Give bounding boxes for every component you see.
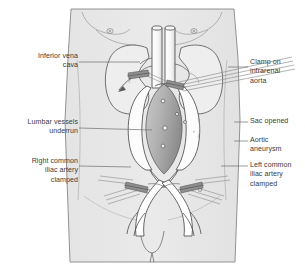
label-inferior-vena-cava: Inferior vena cava (14, 52, 78, 71)
aorta-proximal-vessel (165, 26, 175, 86)
label-clamp-on-infrarenal-aorta: Clamp on infrarenal aorta (250, 58, 305, 86)
label-sac-opened: Sac opened (250, 117, 305, 126)
aortic-aneurysm-repair-figure: Inferior vena cava Lumbar vessels underr… (0, 0, 305, 275)
label-lumbar-vessels-underrun: Lumbar vessels underrun (6, 118, 78, 137)
label-left-common-iliac-artery-clamped: Left common iliac artery clamped (250, 161, 305, 189)
label-right-common-iliac-artery-clamped: Right common iliac artery clamped (12, 157, 78, 185)
label-aortic-aneurysm: Aortic aneurysm (250, 136, 305, 155)
